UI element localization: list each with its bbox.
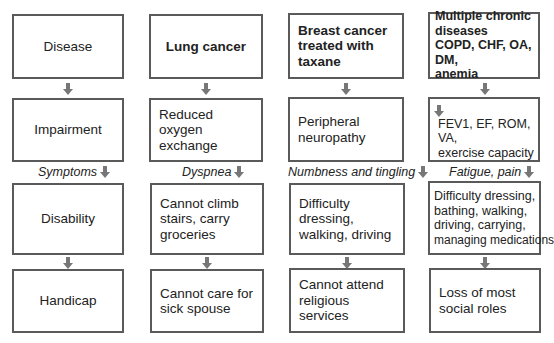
- box-line: FEV1, EF, ROM, VA,: [434, 117, 534, 146]
- box-line: Peripheral: [298, 114, 360, 130]
- box-line: Cannot care for: [160, 286, 253, 302]
- label-text: Symptoms: [38, 165, 97, 179]
- down-arrow-icon: [341, 83, 351, 95]
- box-cannot-climb: Cannot climb stairs, carry groceries: [150, 183, 264, 255]
- box-line: services: [299, 308, 349, 324]
- box-line: neuropathy: [298, 130, 366, 146]
- box-difficulty-dressing: Difficulty dressing, walking, driving: [289, 183, 405, 255]
- box-handicap: Handicap: [12, 269, 124, 333]
- box-line: treated with: [298, 38, 374, 54]
- box-line: Difficulty: [299, 196, 350, 212]
- transition-label-dyspnea: Dyspnea: [182, 163, 244, 181]
- box-line: stairs, carry: [160, 211, 230, 227]
- box-disease: Disease: [12, 14, 124, 79]
- box-line: COPD, CHF, OA, DM,: [435, 38, 534, 67]
- box-line: Multiple chronic: [435, 9, 531, 24]
- down-arrow-icon: [100, 166, 110, 178]
- box-line: walking, driving: [299, 227, 391, 243]
- box-impairment: Impairment: [12, 98, 124, 162]
- box-text: Disease: [44, 39, 93, 55]
- box-disability: Disability: [12, 183, 124, 255]
- down-arrow-icon: [480, 83, 490, 95]
- transition-label-numbness: Numbness and tingling: [288, 163, 428, 181]
- transition-label-symptoms: Symptoms: [38, 163, 110, 181]
- down-arrow-icon: [418, 166, 428, 178]
- box-line: Breast cancer: [298, 23, 387, 39]
- box-line: Reduced: [159, 107, 213, 123]
- box-line: driving, carrying,: [434, 218, 526, 233]
- box-difficulty-multiple: Difficulty dressing, bathing, walking, d…: [428, 181, 541, 255]
- box-line: social roles: [439, 301, 507, 317]
- box-text: Lung cancer: [166, 39, 246, 55]
- box-line: exchange: [159, 138, 218, 154]
- box-line: groceries: [160, 227, 216, 243]
- label-text: Numbness and tingling: [288, 165, 415, 179]
- down-arrow-icon: [524, 166, 534, 178]
- box-cannot-care: Cannot care for sick spouse: [150, 269, 264, 333]
- box-line: exercise capacity: [434, 146, 534, 161]
- box-breast-cancer: Breast cancer treated with taxane: [288, 13, 404, 79]
- down-arrow-icon: [63, 257, 73, 269]
- box-line: managing medications: [434, 233, 554, 248]
- box-lung-cancer: Lung cancer: [149, 14, 263, 79]
- box-line: religious: [299, 293, 349, 309]
- box-peripheral-neuropathy: Peripheral neuropathy: [288, 97, 404, 162]
- down-arrow-icon: [202, 257, 212, 269]
- box-fev1-decline: FEV1, EF, ROM, VA, exercise capacity: [428, 97, 540, 162]
- box-line: taxane: [298, 54, 341, 70]
- box-line: diseases: [435, 24, 488, 39]
- box-line: Loss of most: [439, 285, 516, 301]
- box-text: Impairment: [34, 122, 102, 138]
- transition-label-fatigue: Fatigue, pain: [449, 163, 534, 181]
- box-line: dressing,: [299, 211, 354, 227]
- box-line: Difficulty dressing,: [434, 189, 535, 204]
- down-arrow-icon: [434, 105, 444, 117]
- box-line: sick spouse: [160, 301, 231, 317]
- box-line: anemia: [435, 67, 478, 82]
- down-arrow-icon: [201, 83, 211, 95]
- box-text: Handicap: [39, 293, 96, 309]
- box-text: Disability: [41, 211, 95, 227]
- box-loss-of-roles: Loss of most social roles: [429, 268, 541, 333]
- box-line: Cannot climb: [160, 196, 239, 212]
- box-line: oxygen: [159, 122, 203, 138]
- label-text: Fatigue, pain: [449, 165, 521, 179]
- down-arrow-icon: [234, 166, 244, 178]
- label-text: Dyspnea: [182, 165, 231, 179]
- down-arrow-icon: [63, 83, 73, 95]
- box-cannot-attend: Cannot attend religious services: [289, 268, 405, 333]
- box-line: Cannot attend: [299, 277, 384, 293]
- box-line: bathing, walking,: [434, 204, 527, 219]
- box-multiple-chronic: Multiple chronic diseases COPD, CHF, OA,…: [428, 12, 540, 79]
- box-reduced-oxygen: Reduced oxygen exchange: [149, 98, 263, 162]
